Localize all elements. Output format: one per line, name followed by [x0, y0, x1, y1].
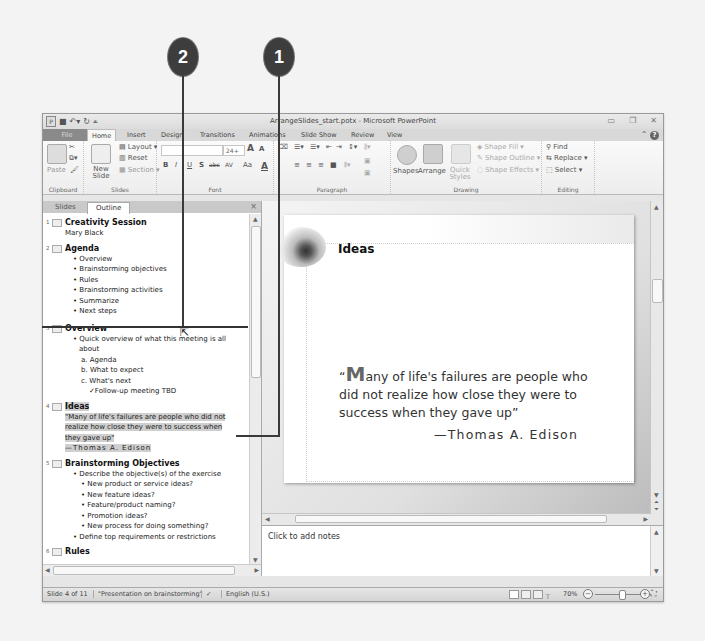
font-size-dropdown[interactable]: 24+ [223, 145, 245, 156]
font-color-button[interactable]: A [261, 161, 268, 171]
scroll-right-arrow[interactable]: ▶ [254, 566, 259, 573]
minimize-ribbon-icon[interactable]: ⌃ [641, 130, 648, 139]
section-button[interactable]: ▦ Section ▾ [119, 166, 160, 174]
outline-slide-5[interactable]: 5 Brainstorming Objectives Describe the … [43, 458, 249, 543]
outline-slide-1[interactable]: 1 Creativity Session Mary Black [43, 217, 249, 239]
outline-slide-3[interactable]: 3 Overview Quick overview of what this m… [43, 323, 249, 397]
zoom-out-button[interactable]: − [583, 589, 593, 599]
bullets-button[interactable]: ☰▾ [294, 143, 304, 151]
smartart-button[interactable]: ▣ [364, 169, 371, 177]
slide-show-view-button[interactable]: ⊤ [545, 593, 551, 601]
arrange-icon[interactable] [423, 144, 443, 164]
close-pane-button[interactable]: × [250, 202, 257, 211]
bold-button[interactable]: B [163, 161, 168, 169]
slide-sorter-view-button[interactable] [521, 590, 531, 599]
align-center-button[interactable]: ≡ [306, 161, 312, 169]
slide-icon[interactable] [52, 403, 62, 411]
outline-slide-4[interactable]: 4 Ideas "Many of life's failures are peo… [43, 401, 249, 454]
align-left-button[interactable]: ≡ [294, 161, 300, 169]
reset-button[interactable]: ▥ Reset [119, 154, 147, 162]
scroll-up-arrow[interactable]: ▲ [654, 203, 659, 210]
slide-author[interactable]: —Thomas A. Edison [434, 427, 578, 442]
tab-outline[interactable]: Outline [87, 202, 130, 214]
change-case-button[interactable]: Aa [243, 161, 252, 169]
character-spacing-button[interactable]: AV [225, 161, 233, 168]
editor-horizontal-scrollbar[interactable]: ◀ ▶ [262, 513, 651, 524]
slide-icon[interactable] [52, 460, 62, 468]
spell-check-icon[interactable]: ✓ [201, 590, 211, 598]
notes-scrollbar[interactable]: ▲ ▼ [650, 526, 663, 576]
zoom-in-button[interactable]: + [640, 589, 650, 599]
select-button[interactable]: ⬚ Select ▾ [546, 166, 582, 174]
font-name-dropdown[interactable] [161, 145, 223, 156]
tab-slides[interactable]: Slides [47, 202, 84, 213]
tab-slide-show[interactable]: Slide Show [297, 129, 340, 141]
shape-outline-button[interactable]: ✎ Shape Outline ▾ [477, 154, 540, 162]
format-painter-icon[interactable]: 🖌 [70, 166, 79, 174]
outline-content[interactable]: 1 Creativity Session Mary Black 2 Agenda… [43, 214, 249, 564]
slide-title[interactable]: Ideas [338, 242, 374, 256]
slide-icon[interactable] [52, 548, 62, 556]
outline-vertical-scrollbar[interactable]: ▲ ▼ [249, 214, 261, 564]
text-shadow-button[interactable]: S [199, 161, 204, 169]
scroll-up-arrow[interactable]: ▲ [253, 215, 258, 222]
tab-view[interactable]: View [383, 129, 406, 141]
layout-button[interactable]: ▤ Layout ▾ [119, 143, 157, 151]
zoom-level[interactable]: 70% [563, 590, 577, 598]
italic-button[interactable]: I [175, 161, 177, 169]
line-spacing-button[interactable]: ↕▾ [348, 143, 357, 151]
justify-button[interactable]: ■ [330, 161, 337, 169]
paste-button[interactable]: Paste [47, 166, 66, 174]
underline-button[interactable]: U [187, 161, 192, 169]
help-icon[interactable]: ? [650, 131, 659, 140]
shrink-font-button[interactable]: A [259, 145, 264, 153]
slide-icon[interactable] [52, 245, 62, 253]
text-direction-button[interactable]: ⫼▾ [364, 143, 371, 151]
scroll-left-arrow[interactable]: ◀ [45, 566, 50, 573]
scroll-thumb[interactable] [251, 226, 261, 378]
notes-pane[interactable]: Click to add notes ▲ ▼ [262, 525, 663, 576]
shape-effects-button[interactable]: ◌ Shape Effects ▾ [477, 166, 539, 174]
close-button[interactable]: ✕ [650, 116, 657, 125]
slide-icon[interactable] [52, 219, 62, 227]
columns-button[interactable]: ⫴▾ [344, 161, 351, 169]
scroll-down-arrow[interactable]: ▼ [654, 567, 659, 574]
minimize-button[interactable]: ▭ [608, 116, 616, 125]
copy-icon[interactable]: ⧉▾ [69, 154, 78, 162]
zoom-slider-knob[interactable] [619, 590, 626, 600]
scroll-left-arrow[interactable]: ◀ [265, 515, 270, 522]
new-slide-icon[interactable] [91, 144, 111, 164]
next-slide-button[interactable]: ⏷ [654, 505, 659, 513]
scroll-thumb[interactable] [652, 279, 663, 303]
decrease-indent-button[interactable]: ⇤ [326, 143, 332, 151]
tab-insert[interactable]: Insert [123, 129, 150, 141]
fit-to-window-button[interactable]: ⛶ [651, 589, 657, 599]
reading-view-button[interactable] [533, 590, 543, 599]
slide-editor[interactable]: Ideas “Many of life's failures are peopl… [262, 201, 663, 524]
find-button[interactable]: ⚲ Find [546, 143, 568, 151]
slide-canvas[interactable]: Ideas “Many of life's failures are peopl… [284, 215, 634, 483]
slide-quote[interactable]: “Many of life's failures are people who … [339, 365, 609, 422]
align-right-button[interactable]: ≡ [318, 161, 324, 169]
numbering-button[interactable]: ☰▾ [310, 143, 320, 151]
h-scroll-thumb[interactable] [53, 566, 235, 575]
outline-horizontal-scrollbar[interactable]: ◀ ▶ [43, 564, 261, 576]
tab-animations[interactable]: Animations [245, 129, 290, 141]
scroll-down-arrow[interactable]: ▼ [654, 491, 659, 498]
quick-styles-button[interactable]: Quick Styles [449, 167, 471, 181]
cut-icon[interactable]: ✂ [69, 143, 75, 151]
editor-vertical-scrollbar[interactable]: ▲ ▼ ⏶ ⏷ [650, 201, 663, 524]
tab-transitions[interactable]: Transitions [196, 129, 239, 141]
restore-button[interactable]: ❐ [629, 116, 636, 125]
quick-styles-icon[interactable] [451, 144, 471, 164]
tab-review[interactable]: Review [347, 129, 378, 141]
strikethrough-button[interactable]: abc [209, 161, 220, 168]
replace-button[interactable]: ⇆ Replace ▾ [546, 154, 588, 162]
outline-slide-2[interactable]: 2 Agenda Overview Brainstorming objectiv… [43, 243, 249, 317]
language[interactable]: English (U.S.) [221, 590, 270, 598]
paste-icon[interactable] [47, 144, 67, 164]
arrange-button[interactable]: Arrange [418, 167, 446, 175]
scroll-down-arrow[interactable]: ▼ [253, 556, 258, 563]
align-text-button[interactable]: ▣ [364, 157, 371, 165]
shapes-icon[interactable] [397, 145, 417, 165]
